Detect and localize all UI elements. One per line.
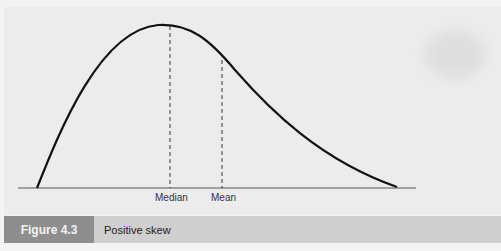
figure-number-badge: Figure 4.3 xyxy=(4,216,94,243)
median-label: Median xyxy=(155,192,188,203)
distribution-curve xyxy=(37,25,397,188)
bottom-margin xyxy=(0,243,501,251)
mean-label: Mean xyxy=(211,192,236,203)
skew-chart xyxy=(0,0,501,251)
figure-title: Positive skew xyxy=(104,224,171,236)
figure-caption: Figure 4.3 Positive skew xyxy=(4,216,501,243)
